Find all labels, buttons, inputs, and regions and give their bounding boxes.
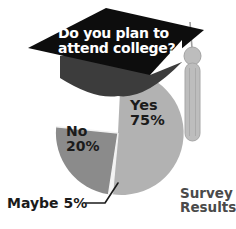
survey-infographic: Do you plan to attend college? Yes 75% N…: [0, 0, 236, 229]
tassel-bead-icon: [184, 47, 201, 65]
pie-label-maybe: Maybe 5%: [7, 196, 87, 211]
question-title: Do you plan to attend college?: [58, 26, 180, 55]
pie-label-yes: Yes 75%: [130, 98, 165, 128]
chart-caption: Survey Results: [180, 186, 236, 214]
pie-label-no: No 20%: [66, 124, 100, 153]
tassel-body: [185, 63, 200, 141]
